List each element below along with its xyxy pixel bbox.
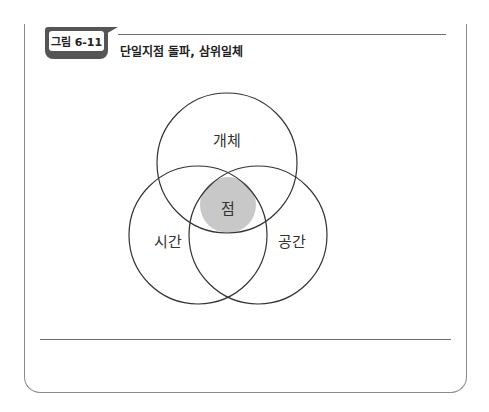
venn-diagram xyxy=(0,0,489,412)
label-point: 점 xyxy=(221,197,235,218)
label-entity: 개체 xyxy=(213,129,241,150)
label-space: 공간 xyxy=(278,230,306,251)
label-time: 시간 xyxy=(154,230,182,251)
